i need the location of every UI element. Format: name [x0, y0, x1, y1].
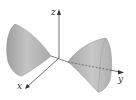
- y-axis-inner: [51, 56, 68, 62]
- y-axis-label: y: [117, 74, 124, 84]
- z-axis: z: [50, 7, 61, 58]
- y-axis: y: [110, 70, 124, 84]
- x-axis-label: x: [17, 81, 22, 91]
- hyperboloid-diagram: x z y: [0, 0, 136, 100]
- left-sheet: [7, 24, 51, 76]
- right-sheet: [68, 38, 112, 92]
- z-axis-label: z: [50, 7, 56, 17]
